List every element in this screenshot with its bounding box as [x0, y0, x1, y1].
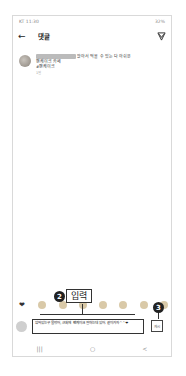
recent-apps-button[interactable]: ||| [37, 345, 43, 352]
status-bar: KT 11:30 32% [13, 16, 171, 27]
my-avatar [16, 321, 27, 332]
emoji-quick-row: ❤ [16, 299, 170, 311]
home-button[interactable]: ○ [90, 345, 95, 352]
comment-body: username_hidden 앉아서 먹을 수 있는 다 아쉬운 팬케이크 카… [36, 54, 132, 76]
commenter-avatar[interactable] [19, 55, 31, 67]
emoji-surprised[interactable] [140, 301, 148, 309]
emoji-heart[interactable]: ❤ [18, 301, 26, 309]
comment-text-line1: 앉아서 먹을 수 있는 다 아쉬운 [77, 54, 131, 59]
battery-level: 32% [155, 19, 165, 24]
emoji-heart-eyes[interactable] [119, 301, 127, 309]
comment-input-row: 앉아있는곳 물었어, 근처에 팬케이크 잘하는데 있어. 같이가자^^❤ 게시 [13, 316, 171, 336]
emoji-raised-hands[interactable] [38, 301, 46, 309]
app-bar: ← 댓글 [13, 28, 171, 44]
page-title: 댓글 [38, 31, 156, 41]
post-button[interactable]: 게시 [151, 320, 163, 332]
callout-number-2: 2 [54, 291, 65, 302]
comment-item: username_hidden 앉아서 먹을 수 있는 다 아쉬운 팬케이크 카… [19, 54, 164, 76]
paper-plane-icon[interactable] [156, 31, 166, 41]
android-nav-bar: ||| ○ < [13, 340, 171, 356]
comment-input[interactable]: 앉아있는곳 물었어, 근처에 팬케이크 잘하는데 있어. 같이가자^^❤ [32, 319, 144, 334]
back-arrow-icon[interactable]: ← [18, 32, 32, 41]
carrier-time: KT 11:30 [19, 19, 39, 24]
comment-time: 1일 [36, 71, 132, 76]
callout-number-3: 3 [153, 302, 164, 313]
callout-2-connector-h [40, 314, 135, 315]
callout-label-input: 입력 [66, 289, 92, 303]
comment-hashtag[interactable]: #팬케이크 [36, 64, 132, 69]
phone-screen: KT 11:30 32% ← 댓글 username_hidden 앉아서 먹을… [12, 15, 172, 357]
callout-3-connector [158, 312, 159, 319]
emoji-crying[interactable] [99, 301, 107, 309]
back-button[interactable]: < [142, 345, 147, 352]
